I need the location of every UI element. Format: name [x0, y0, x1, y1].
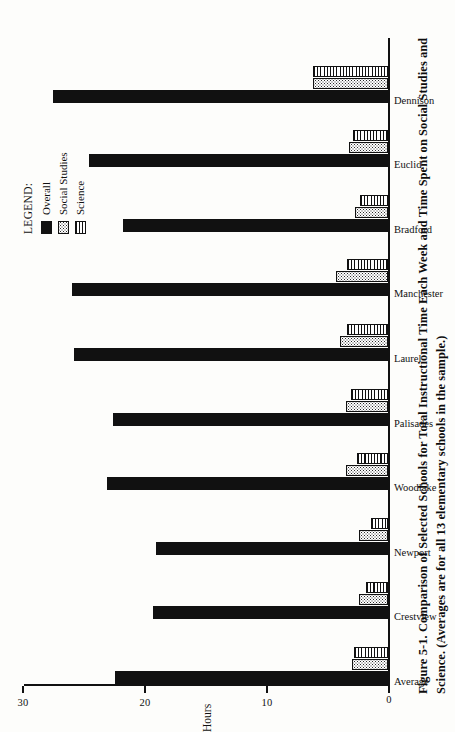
- bar-group: Average: [24, 619, 388, 684]
- bar-group: Newport: [24, 490, 388, 555]
- bar-social: [346, 401, 388, 412]
- category-axis-line: [388, 38, 390, 686]
- legend-swatch-overall: [41, 221, 52, 234]
- bar-science: [366, 582, 388, 593]
- legend-swatch-social: [58, 221, 69, 234]
- legend-title: LEGEND:: [22, 152, 34, 234]
- value-axis-line: [24, 684, 390, 686]
- axis-tick: 30: [22, 686, 24, 693]
- bar-overall: [74, 348, 388, 361]
- axis-tick-label: 10: [262, 697, 273, 708]
- legend-label: Overall: [40, 182, 52, 215]
- bar-overall: [153, 606, 388, 619]
- figure-caption-text: Figure 5-1. Comparison of Selected Schoo…: [416, 38, 448, 694]
- bar-overall: [107, 477, 388, 490]
- bar-science: [347, 259, 388, 270]
- figure-caption: Figure 5-1. Comparison of Selected Schoo…: [415, 8, 451, 694]
- bar-science: [353, 130, 388, 141]
- bar-social: [346, 465, 388, 476]
- bar-science: [347, 324, 388, 335]
- bar-group: Palisades: [24, 361, 388, 426]
- bar-science: [371, 518, 388, 529]
- bar-social: [352, 659, 388, 670]
- bar-science: [357, 453, 388, 464]
- legend-item: Overall: [40, 152, 52, 234]
- axis-title-hours: Hours: [201, 704, 213, 732]
- bar-overall: [113, 413, 388, 426]
- legend-items: OverallSocial StudiesScience: [40, 152, 86, 234]
- legend-label: Science: [74, 181, 86, 215]
- bar-science: [354, 647, 388, 658]
- bar-group: Dennison: [24, 38, 388, 103]
- legend-item: Social Studies: [57, 152, 69, 234]
- bar-overall: [89, 154, 388, 167]
- bar-group: Laurel: [24, 296, 388, 361]
- bar-science: [313, 66, 388, 77]
- bar-social: [313, 78, 388, 89]
- axis-tick-label: 20: [140, 697, 151, 708]
- axis-tick: 20: [144, 686, 146, 693]
- legend-swatch-science: [75, 221, 86, 234]
- bar-science: [351, 389, 388, 400]
- bar-social: [340, 336, 388, 347]
- axis-tick: 10: [266, 686, 268, 693]
- bar-social: [359, 530, 388, 541]
- bar-social: [349, 142, 388, 153]
- bar-overall: [115, 671, 388, 684]
- legend-label: Social Studies: [57, 152, 69, 215]
- axis-tick: 0: [388, 686, 390, 693]
- bar-social: [359, 594, 388, 605]
- bar-overall: [72, 283, 388, 296]
- bar-group: Woodlake: [24, 426, 388, 491]
- bar-science: [360, 195, 388, 206]
- bar-overall: [123, 219, 388, 232]
- bar-group: Manchester: [24, 232, 388, 297]
- legend: LEGEND: OverallSocial StudiesScience: [22, 152, 91, 234]
- legend-item: Science: [74, 152, 86, 234]
- bar-overall: [53, 90, 388, 103]
- bar-social: [355, 207, 388, 218]
- bar-social: [336, 271, 388, 282]
- bar-overall: [156, 542, 388, 555]
- axis-tick-label: 30: [18, 697, 29, 708]
- bar-group: Crestview: [24, 555, 388, 620]
- bar-groups: AverageCrestviewNewportWoodlakePalisades…: [24, 38, 388, 684]
- plot-area: Hours 0102030 AverageCrestviewNewportWoo…: [24, 38, 390, 686]
- axis-tick-label: 0: [386, 694, 391, 705]
